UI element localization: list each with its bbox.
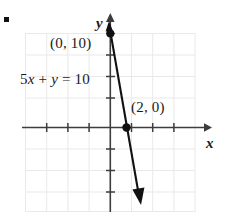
y-intercept-label: (0, 10) — [50, 36, 91, 51]
equation-label: 5x + y = 10 — [20, 72, 90, 87]
graph-figure — [0, 0, 225, 220]
equation-variable-x: x — [28, 71, 35, 87]
x-intercept-label: (2, 0) — [131, 100, 165, 115]
equation-equals-sign: = — [62, 71, 71, 87]
equation-variable-y: y — [51, 71, 58, 87]
x-axis-label: x — [206, 136, 214, 151]
y-axis-label: y — [96, 16, 103, 31]
point-marker-y-intercept — [106, 30, 114, 38]
point-marker-x-intercept — [122, 123, 130, 131]
list-bullet-icon — [4, 17, 9, 22]
equation-coefficient: 5 — [20, 71, 28, 87]
equation-constant: 10 — [75, 71, 90, 87]
equation-plus-sign: + — [39, 71, 48, 87]
